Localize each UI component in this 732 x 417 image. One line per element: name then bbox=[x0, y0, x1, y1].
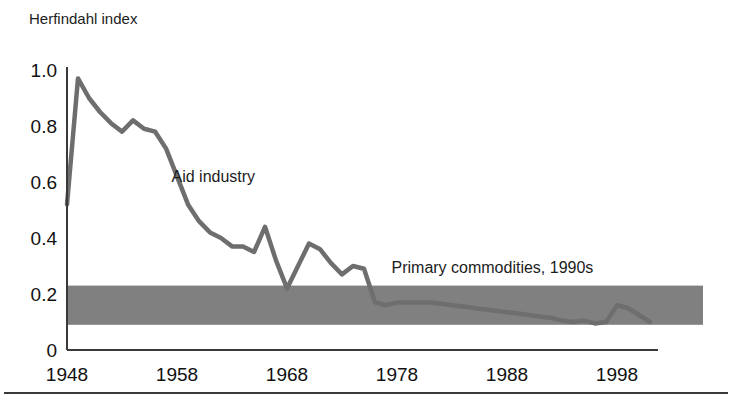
annotation-primary-commodities: Primary commodities, 1990s bbox=[392, 259, 594, 276]
y-tick-0.4: 0.4 bbox=[31, 228, 58, 249]
y-tick-0.2: 0.2 bbox=[31, 284, 57, 305]
y-tick-0.6: 0.6 bbox=[31, 172, 57, 193]
x-tick-1968: 1968 bbox=[266, 364, 308, 385]
x-tick-1978: 1978 bbox=[376, 364, 418, 385]
x-tick-1998: 1998 bbox=[596, 364, 638, 385]
y-axis-title: Herfindahl index bbox=[29, 10, 138, 27]
x-tick-1988: 1988 bbox=[486, 364, 528, 385]
x-tick-1958: 1958 bbox=[156, 364, 198, 385]
y-tick-0: 0 bbox=[46, 340, 57, 361]
y-tick-0.8: 0.8 bbox=[31, 116, 57, 137]
x-tick-1948: 1948 bbox=[46, 364, 88, 385]
annotation-aid-industry: Aid industry bbox=[172, 168, 256, 185]
chart-background bbox=[0, 0, 732, 417]
herfindahl-index-chart: Herfindahl index 00.20.40.60.81.0 194819… bbox=[0, 0, 732, 417]
y-tick-1.0: 1.0 bbox=[31, 60, 57, 81]
